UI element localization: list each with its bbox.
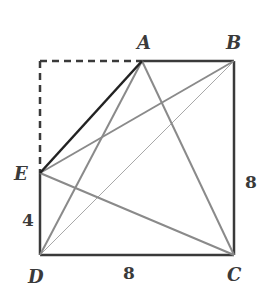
measure-left-lower: 4 [22,210,34,230]
segment-AC [142,61,234,255]
measure-right: 8 [245,172,257,192]
label-B: B [225,32,241,53]
segment-BD [40,61,234,255]
segment-EC [40,173,234,255]
segment-EB [40,61,234,173]
geometry-figure: A B C D E 8 8 4 [0,0,268,297]
label-E: E [13,163,28,184]
measure-bottom: 8 [123,263,135,283]
label-A: A [135,32,151,53]
label-C: C [227,264,242,285]
label-D: D [27,266,44,287]
